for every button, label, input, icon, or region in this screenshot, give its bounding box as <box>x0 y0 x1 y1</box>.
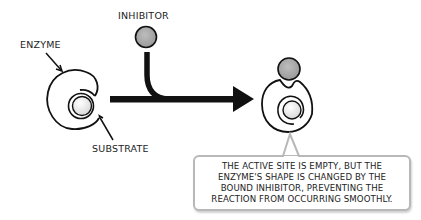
inhibitor-molecule <box>136 27 157 48</box>
callout-line: REACTION FROM OCCURRING SMOOTHLY. <box>211 194 392 205</box>
substrate-label: SUBSTRATE <box>92 143 149 154</box>
callout-pointer <box>283 134 299 156</box>
enzyme-label: ENZYME <box>20 39 61 50</box>
inhibitor-binding-path <box>147 52 168 99</box>
callout-line: BOUND INHIBITOR, PREVENTING THE <box>221 183 384 194</box>
callout-line: THE ACTIVE SITE IS EMPTY, BUT THE <box>222 161 382 172</box>
enzyme-pointer-arrow <box>46 53 62 71</box>
inhibitor-bound-molecule <box>278 58 300 80</box>
substrate-molecule <box>69 94 94 119</box>
explanation-callout: THE ACTIVE SITE IS EMPTY, BUT THE ENZYME… <box>193 155 411 211</box>
reaction-arrow <box>110 86 254 112</box>
callout-line: ENZYME'S SHAPE IS CHANGED BY THE <box>218 172 386 183</box>
inhibitor-label: INHIBITOR <box>118 10 169 21</box>
